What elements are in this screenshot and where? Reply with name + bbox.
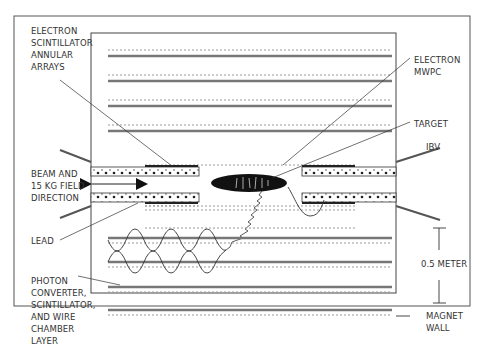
label-ibv: IBV bbox=[426, 141, 440, 153]
beam-arrow bbox=[80, 178, 148, 190]
photon-track bbox=[226, 191, 262, 250]
magnet-wall-box bbox=[91, 33, 396, 293]
scale-bar bbox=[396, 228, 446, 316]
label-electron-scintillator: ELECTRON SCINTILLATOR ANNULAR ARRAYS bbox=[31, 25, 93, 73]
lower-tracking-layers bbox=[108, 228, 392, 315]
label-photon-converter: PHOTON CONVERTER, SCINTILLATOR, AND WIRE… bbox=[31, 275, 96, 347]
upper-tracking-layers bbox=[108, 50, 392, 165]
label-target: TARGET bbox=[414, 118, 448, 130]
photon-waves bbox=[108, 229, 226, 273]
label-scale: 0.5 METER bbox=[421, 258, 467, 270]
label-beam-direction: BEAM AND 15 KG FIELD DIRECTION bbox=[31, 168, 85, 204]
label-magnet-wall: MAGNET WALL bbox=[426, 310, 463, 334]
label-lead: LEAD bbox=[31, 235, 54, 247]
label-electron-mwpc: ELECTRON MWPC bbox=[414, 54, 460, 78]
